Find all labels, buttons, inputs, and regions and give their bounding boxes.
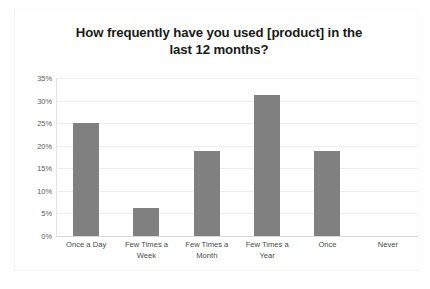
bar[interactable]: [133, 208, 159, 236]
y-tick-label: 10%: [22, 186, 52, 195]
y-tick-label: 15%: [22, 164, 52, 173]
y-tick-label: 5%: [22, 209, 52, 218]
bar-slot: [297, 78, 357, 236]
bar-slot: [177, 78, 237, 236]
y-tick-label: 30%: [22, 96, 52, 105]
x-axis-tick-labels: Once a DayFew Times aWeekFew Times aMont…: [56, 240, 418, 272]
bar-series: [56, 78, 418, 236]
y-axis-tick-labels: 0%5%10%15%20%25%30%35%: [20, 78, 52, 236]
x-tick-label-line: Few Times a: [177, 240, 237, 251]
x-tick-label-line: Year: [237, 251, 297, 262]
x-tick-label: Few Times aMonth: [177, 240, 237, 261]
chart-container: How frequently have you used [product] i…: [0, 0, 430, 289]
bar-slot: [237, 78, 297, 236]
x-tick-label-line: Few Times a: [237, 240, 297, 251]
x-tick-label-line: Month: [177, 251, 237, 262]
x-tick-label: Once: [297, 240, 357, 251]
bar-slot: [56, 78, 116, 236]
chart-title-line-2: last 12 months?: [28, 41, 410, 58]
x-tick-label: Few Times aYear: [237, 240, 297, 261]
x-tick-label-line: Never: [358, 240, 418, 251]
y-tick-label: 25%: [22, 119, 52, 128]
x-tick-label: Once a Day: [56, 240, 116, 251]
x-tick-label: Few Times aWeek: [116, 240, 176, 261]
chart-title-line-1: How frequently have you used [product] i…: [28, 24, 410, 41]
bar[interactable]: [254, 95, 280, 236]
chart-title: How frequently have you used [product] i…: [28, 24, 410, 58]
gridline-0%: [56, 236, 418, 237]
x-tick-label-line: Once a Day: [56, 240, 116, 251]
bar[interactable]: [73, 123, 99, 236]
bar-slot: [116, 78, 176, 236]
bar-slot: [358, 78, 418, 236]
y-tick-label: 20%: [22, 141, 52, 150]
x-tick-label: Never: [358, 240, 418, 251]
bar[interactable]: [194, 151, 220, 236]
y-tick-label: 35%: [22, 74, 52, 83]
x-tick-label-line: Week: [116, 251, 176, 262]
x-tick-label-line: Few Times a: [116, 240, 176, 251]
y-tick-label: 0%: [22, 232, 52, 241]
x-tick-label-line: Once: [297, 240, 357, 251]
bar[interactable]: [314, 151, 340, 236]
